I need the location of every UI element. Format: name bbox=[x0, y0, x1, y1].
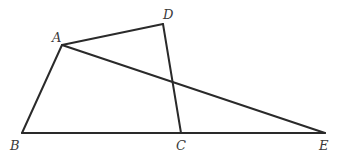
segments bbox=[22, 24, 325, 133]
segment-ae bbox=[62, 45, 325, 133]
segment-ad bbox=[62, 24, 163, 45]
label-c: C bbox=[176, 138, 186, 153]
label-b: B bbox=[9, 138, 20, 153]
segment-ab bbox=[22, 45, 62, 133]
geometry-diagram: A B C D E bbox=[0, 0, 340, 160]
segment-dc bbox=[163, 24, 181, 133]
label-a: A bbox=[51, 30, 61, 45]
label-d: D bbox=[162, 7, 174, 22]
label-e: E bbox=[318, 138, 329, 153]
